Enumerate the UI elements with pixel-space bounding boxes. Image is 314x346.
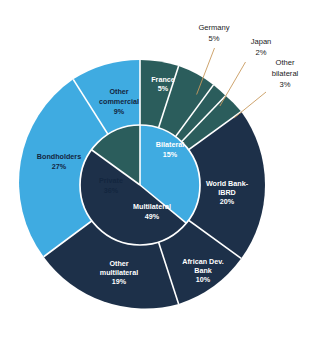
label-other-multilateral-pct: 19%: [112, 277, 127, 286]
label-afdb-pct: 10%: [196, 275, 211, 284]
callout-germany-name: Germany: [198, 23, 229, 32]
label-france-name: France: [151, 75, 175, 84]
label-other-commercial-line1: Other: [109, 87, 128, 96]
label-private-pct: 36%: [104, 186, 119, 195]
leader-line-other-bilateral: [234, 92, 266, 118]
label-other-multilateral-line1: Other: [109, 259, 128, 268]
pie-chart-container: France 5% World Bank- IBRD 20% African D…: [0, 0, 314, 346]
label-bilateral-pct: 15%: [163, 150, 178, 159]
callout-japan-name: Japan: [251, 37, 272, 46]
label-worldbank-pct: 20%: [220, 197, 235, 206]
label-bondholders-name: Bondholders: [37, 152, 81, 161]
label-other-commercial-pct: 9%: [114, 107, 125, 116]
callout-other-bilateral-line2: bilateral: [272, 69, 299, 78]
label-afdb-line2: Bank: [194, 266, 212, 275]
label-multilateral-name: Multilateral: [133, 202, 171, 211]
label-worldbank-line1: World Bank-: [206, 179, 249, 188]
label-afdb-line1: African Dev.: [182, 257, 223, 266]
leader-line-japan: [220, 62, 246, 106]
nested-pie-chart: France 5% World Bank- IBRD 20% African D…: [0, 0, 314, 346]
callout-japan-pct: 2%: [256, 48, 267, 57]
callout-other-bilateral-pct: 3%: [280, 80, 291, 89]
label-bilateral-name: Bilateral: [156, 140, 184, 149]
label-multilateral-pct: 49%: [145, 212, 160, 221]
callout-germany-pct: 5%: [209, 34, 220, 43]
callout-labels: Germany 5% Japan 2% Other bilateral 3%: [198, 23, 298, 89]
label-other-multilateral-line2: multilateral: [100, 268, 138, 277]
label-private-name: Private: [99, 176, 123, 185]
label-france-pct: 5%: [158, 84, 169, 93]
callout-other-bilateral-line1: Other: [276, 58, 295, 67]
label-bondholders-pct: 27%: [52, 162, 67, 171]
label-worldbank-line2: IBRD: [218, 188, 236, 197]
label-other-commercial-line2: commercial: [99, 97, 139, 106]
